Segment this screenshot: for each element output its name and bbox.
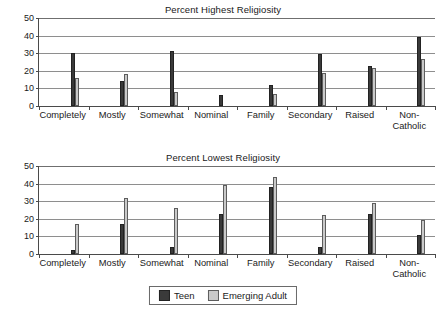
chart-panel-lowest-religiosity: Percent Lowest Religiosity 01020304050 C… bbox=[0, 148, 446, 280]
x-axis-category-label: Family bbox=[236, 110, 286, 132]
legend-item: Teen bbox=[159, 290, 195, 301]
bar-group bbox=[336, 166, 386, 254]
bar-group bbox=[39, 166, 89, 254]
bar bbox=[372, 203, 376, 254]
x-axis-category-label: Nominal bbox=[187, 110, 237, 132]
x-axis-category-label: Completely bbox=[38, 110, 88, 132]
bar-group bbox=[138, 166, 188, 254]
bar bbox=[75, 78, 79, 106]
bar-group bbox=[336, 18, 386, 106]
y-tick-label-0: 0 bbox=[29, 101, 34, 111]
bar-group bbox=[188, 166, 238, 254]
bar bbox=[219, 95, 223, 106]
y-tick-label-40: 40 bbox=[24, 179, 34, 189]
bar-group bbox=[89, 18, 139, 106]
y-tick-label-10: 10 bbox=[24, 231, 34, 241]
y-tick-label-40: 40 bbox=[24, 31, 34, 41]
chart-legend: TeenEmerging Adult bbox=[149, 286, 297, 305]
bar bbox=[372, 68, 376, 106]
bar bbox=[273, 177, 277, 254]
bar-group bbox=[188, 18, 238, 106]
bar-group bbox=[237, 18, 287, 106]
bar-group bbox=[386, 18, 436, 106]
x-tick-mark-end bbox=[435, 106, 436, 110]
bar bbox=[322, 73, 326, 106]
x-axis-labels-lowest: CompletelyMostlySomewhatNominalFamilySec… bbox=[38, 258, 434, 280]
x-axis-category-label: Nominal bbox=[187, 258, 237, 280]
bar-group bbox=[287, 18, 337, 106]
x-axis-category-label: Somewhat bbox=[137, 110, 187, 132]
x-axis-category-label: Secondary bbox=[286, 110, 336, 132]
x-axis-category-label: Secondary bbox=[286, 258, 336, 280]
bar bbox=[174, 208, 178, 254]
legend-label: Teen bbox=[174, 290, 195, 301]
x-axis-category-label: Non-Catholic bbox=[385, 258, 435, 280]
y-tick-label-30: 30 bbox=[24, 48, 34, 58]
x-axis-category-label: Raised bbox=[335, 258, 385, 280]
bar bbox=[322, 215, 326, 254]
bar-group bbox=[138, 18, 188, 106]
bar bbox=[75, 224, 79, 254]
bar-group bbox=[39, 18, 89, 106]
bar bbox=[421, 220, 425, 254]
x-axis-labels-highest: CompletelyMostlySomewhatNominalFamilySec… bbox=[38, 110, 434, 132]
bar-group bbox=[237, 166, 287, 254]
x-axis-category-label: Completely bbox=[38, 258, 88, 280]
bar-group bbox=[89, 166, 139, 254]
bar bbox=[124, 74, 128, 106]
legend-label: Emerging Adult bbox=[223, 290, 287, 301]
x-axis-category-label: Mostly bbox=[88, 258, 138, 280]
plot-area-lowest: 01020304050 bbox=[38, 166, 435, 255]
x-axis-category-label: Mostly bbox=[88, 110, 138, 132]
chart-panel-highest-religiosity: Percent Highest Religiosity 01020304050 … bbox=[0, 0, 446, 148]
plot-area-highest: 01020304050 bbox=[38, 18, 435, 107]
bar-groups bbox=[39, 18, 435, 106]
y-tick-label-30: 30 bbox=[24, 196, 34, 206]
bar-group bbox=[287, 166, 337, 254]
x-tick-mark-end bbox=[435, 254, 436, 258]
legend-item: Emerging Adult bbox=[208, 290, 287, 301]
bar bbox=[421, 59, 425, 106]
y-tick-label-0: 0 bbox=[29, 249, 34, 259]
legend-swatch-icon bbox=[208, 290, 219, 301]
legend-swatch-icon bbox=[159, 290, 170, 301]
y-tick-label-50: 50 bbox=[24, 13, 34, 23]
chart-title-highest: Percent Highest Religiosity bbox=[0, 4, 446, 15]
x-axis-category-label: Non-Catholic bbox=[385, 110, 435, 132]
y-tick-label-50: 50 bbox=[24, 161, 34, 171]
bar-groups bbox=[39, 166, 435, 254]
bar bbox=[124, 198, 128, 254]
chart-title-lowest: Percent Lowest Religiosity bbox=[0, 152, 446, 163]
bar bbox=[223, 185, 227, 254]
x-axis-category-label: Somewhat bbox=[137, 258, 187, 280]
bar-group bbox=[386, 166, 436, 254]
y-tick-label-20: 20 bbox=[24, 214, 34, 224]
religiosity-bar-chart-figure: Percent Highest Religiosity 01020304050 … bbox=[0, 0, 446, 314]
bar bbox=[273, 94, 277, 106]
y-tick-label-10: 10 bbox=[24, 83, 34, 93]
bar bbox=[174, 92, 178, 106]
y-tick-label-20: 20 bbox=[24, 66, 34, 76]
x-axis-category-label: Raised bbox=[335, 110, 385, 132]
x-axis-category-label: Family bbox=[236, 258, 286, 280]
